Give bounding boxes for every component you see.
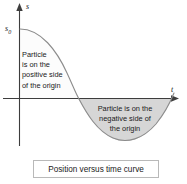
position-versus-time-figure: s t s0 Particle is on the positive side … xyxy=(0,0,187,184)
annotation-positive-line-2: is on the xyxy=(22,60,63,70)
annotation-negative-line-2: negative side of xyxy=(89,114,161,124)
annotation-positive-line-4: of the origin xyxy=(22,81,63,91)
annotation-negative-line-1: Particle is on the xyxy=(89,104,161,114)
annotation-positive-line-3: positive side xyxy=(22,70,63,80)
initial-position-label: s0 xyxy=(5,24,11,35)
annotation-negative-side: Particle is on the negative side of the … xyxy=(89,104,161,135)
annotation-positive-side: Particle is on the positive side of the … xyxy=(22,50,63,91)
figure-caption-text: Position versus time curve xyxy=(48,165,144,174)
initial-position-label-sub: 0 xyxy=(8,29,11,35)
x-axis-label: t xyxy=(171,85,173,94)
figure-caption-box: Position versus time curve xyxy=(33,160,159,178)
annotation-negative-line-3: the origin xyxy=(89,124,161,134)
y-axis-arrowhead xyxy=(16,3,22,11)
y-axis-label: s xyxy=(26,2,29,11)
position-time-plot xyxy=(0,0,187,184)
annotation-positive-line-1: Particle xyxy=(22,50,63,60)
